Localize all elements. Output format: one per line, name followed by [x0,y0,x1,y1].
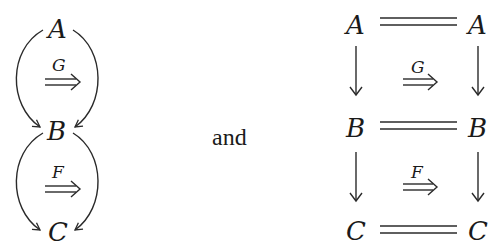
identity-equals-a [380,18,457,25]
two-cell-label-g: G [52,55,66,75]
double-arrow-icon [45,74,80,90]
object-a-right: A [466,10,487,40]
square-label-g: G [411,57,425,77]
object-a-left: A [344,10,365,40]
object-b-left: B [345,113,365,143]
object-a: A [46,14,67,44]
object-c-left: C [346,216,366,246]
identity-equals-b [380,122,457,129]
down-arrow-icon [350,46,362,95]
object-c-right: C [468,216,488,246]
arrow-b-to-c-right [73,133,98,230]
object-b-right: B [467,113,487,143]
down-arrow-icon [472,46,484,95]
down-arrow-icon [472,152,484,201]
right-diagram: A A B B C C [344,10,488,246]
arrow-a-to-b-left [16,30,43,127]
down-arrow-icon [350,152,362,201]
arrow-b-to-c-left [16,133,43,230]
object-b: B [46,116,66,146]
diagram-canvas: A B C G F and A A [0,0,494,247]
square-label-f: F [410,162,424,182]
identity-equals-c [380,226,457,233]
left-diagram: A B C G F [16,14,98,247]
object-c: C [48,217,68,247]
double-arrow-icon [45,181,80,197]
connector-text: and [212,124,247,150]
two-cell-label-f: F [51,162,65,182]
